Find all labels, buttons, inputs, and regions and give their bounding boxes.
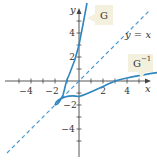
x-tick-label-neg2: −2 [45, 86, 58, 96]
x-axis-label: x [145, 83, 151, 94]
x-tick-label-4: 4 [124, 86, 130, 96]
y-axis-label: y [69, 4, 76, 15]
y-tick-label-neg2: −2 [63, 100, 76, 110]
g-label: G [87, 5, 113, 25]
y-tick-label-neg4: −4 [61, 124, 75, 134]
svg-text:G: G [100, 10, 108, 21]
x-tick-label-neg4: −4 [19, 86, 33, 96]
identity-label: y = x [124, 29, 151, 40]
y-tick-label-4: 4 [69, 28, 75, 38]
svg-text:−1: −1 [141, 55, 151, 63]
svg-text:G: G [133, 58, 141, 69]
graph: −4 −2 2 4 4 2 −2 −4 x y G y = x G −1 [0, 0, 157, 164]
axes: −4 −2 2 4 4 2 −2 −4 x y [5, 4, 151, 157]
y-axis-arrow-icon [77, 8, 82, 14]
